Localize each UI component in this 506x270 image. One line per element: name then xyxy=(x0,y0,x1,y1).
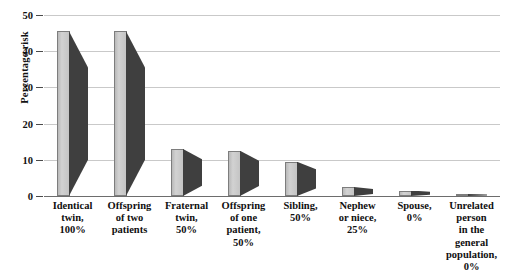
y-axis-tick-mark xyxy=(36,15,43,16)
y-axis-tick-label: 20 xyxy=(23,118,34,129)
plot-area: 50403020100 xyxy=(44,15,500,196)
bar-side-face xyxy=(297,162,316,196)
bar-side-face xyxy=(354,187,373,196)
risk-bar-chart: Percentage risk 50403020100 Identicaltwi… xyxy=(0,0,506,270)
bar xyxy=(57,31,89,196)
y-axis-tick-mark xyxy=(36,124,43,125)
bar-front-face xyxy=(342,187,355,196)
y-axis-tick-label: 10 xyxy=(23,154,34,165)
gridline xyxy=(44,51,500,52)
bar xyxy=(228,151,260,196)
bar-front-face xyxy=(57,31,70,196)
bar-side-face xyxy=(240,151,259,196)
x-axis-baseline xyxy=(44,196,500,197)
bar-front-face xyxy=(114,31,127,196)
gridline xyxy=(44,124,500,125)
bar xyxy=(285,162,317,196)
x-axis-label-line: Unrelated xyxy=(437,200,506,212)
x-axis-label-line: in the xyxy=(437,224,506,236)
x-axis-label-line: 50% xyxy=(209,237,278,249)
bar-front-face xyxy=(456,194,469,196)
y-axis-tick-label: 30 xyxy=(23,82,34,93)
bar-side-face xyxy=(126,31,145,196)
bar-side-face xyxy=(183,149,202,196)
x-axis-label-line: patient, xyxy=(209,224,278,236)
y-axis-tick-mark xyxy=(36,160,43,161)
x-axis-label-line: general xyxy=(437,237,506,249)
gridline xyxy=(44,160,500,161)
bar-side-face xyxy=(468,194,487,196)
x-axis-label-line: person xyxy=(437,212,506,224)
gridline xyxy=(44,15,500,16)
x-axis-label-line: population, 0% xyxy=(437,249,506,270)
bar-side-face xyxy=(69,31,88,196)
x-axis-label-area: Identicaltwin,100%Offspringof twopatient… xyxy=(44,200,506,270)
bar-front-face xyxy=(399,191,412,196)
bar xyxy=(399,191,431,196)
y-axis-tick-label: 0 xyxy=(28,191,33,202)
y-axis-tick-label: 40 xyxy=(23,46,34,57)
y-axis-title: Percentage risk xyxy=(19,0,30,138)
bar xyxy=(456,194,488,196)
y-axis-tick-mark xyxy=(36,196,43,197)
bar-front-face xyxy=(171,149,184,196)
y-axis-tick-mark xyxy=(36,51,43,52)
bar-side-face xyxy=(411,191,430,196)
bar-front-face xyxy=(228,151,241,196)
y-axis-tick-mark xyxy=(36,87,43,88)
gridline xyxy=(44,87,500,88)
x-axis-label-line: 25% xyxy=(323,224,392,236)
bar xyxy=(114,31,146,196)
x-axis-category-label: Unrelatedpersonin thegeneralpopulation, … xyxy=(437,200,506,270)
bar xyxy=(171,149,203,196)
bar-front-face xyxy=(285,162,298,196)
bar xyxy=(342,187,374,196)
y-axis-tick-label: 50 xyxy=(23,10,34,21)
